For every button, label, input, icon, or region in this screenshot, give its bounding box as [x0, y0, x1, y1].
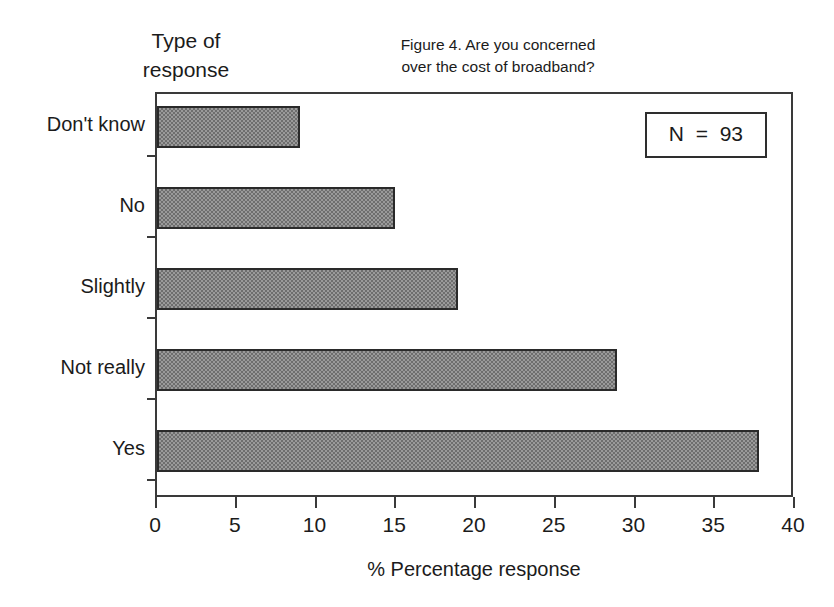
x-tick-mark — [155, 497, 157, 508]
x-axis-tick-labels: 0510152025303540 — [155, 512, 793, 542]
x-tick-mark — [713, 497, 715, 508]
x-tick-mark — [315, 497, 317, 508]
bar-don-t-know — [157, 106, 300, 148]
y-tick-label-yes: Yes — [112, 436, 145, 460]
x-tick-mark — [793, 497, 795, 508]
x-tick-label-25: 25 — [542, 512, 565, 538]
figure-title-line1: Figure 4. Are you concerned — [338, 34, 658, 56]
figure-title-line2: over the cost of broadband? — [338, 56, 658, 78]
x-tick-mark — [394, 497, 396, 508]
bar-slightly — [157, 268, 458, 310]
x-tick-mark — [474, 497, 476, 508]
x-tick-label-30: 30 — [622, 512, 645, 538]
x-tick-label-15: 15 — [383, 512, 406, 538]
x-tick-label-20: 20 — [462, 512, 485, 538]
x-axis-title: % Percentage response — [155, 556, 793, 582]
y-tick-label-don-t-know: Don't know — [47, 112, 145, 136]
y-axis-group-label: Type of response — [74, 26, 298, 84]
y-tick-mark — [147, 398, 157, 400]
y-tick-label-not-really: Not really — [61, 355, 145, 379]
y-tick-label-slightly: Slightly — [81, 274, 145, 298]
x-tick-mark — [235, 497, 237, 508]
x-tick-label-5: 5 — [229, 512, 241, 538]
x-tick-mark — [634, 497, 636, 508]
bar-not-really — [157, 349, 617, 391]
y-axis-group-label-line2: response — [143, 58, 229, 81]
y-tick-mark — [147, 317, 157, 319]
y-tick-label-no: No — [119, 193, 145, 217]
figure-title: Figure 4. Are you concerned over the cos… — [338, 34, 658, 78]
x-tick-mark — [554, 497, 556, 508]
bar-yes — [157, 430, 759, 472]
y-tick-mark — [147, 236, 157, 238]
x-tick-label-40: 40 — [781, 512, 804, 538]
x-tick-label-10: 10 — [303, 512, 326, 538]
y-tick-mark — [147, 155, 157, 157]
sample-size-annotation: N = 93 — [645, 112, 767, 158]
figure-container: Type of response Figure 4. Are you conce… — [0, 0, 834, 607]
y-tick-mark — [147, 479, 157, 481]
y-axis-tick-labels: Don't knowNoSlightlyNot reallyYes — [0, 92, 145, 497]
x-tick-label-35: 35 — [702, 512, 725, 538]
bar-no — [157, 187, 395, 229]
plot-area: N = 93 — [155, 92, 793, 497]
y-axis-group-label-line1: Type of — [152, 29, 221, 52]
x-tick-label-0: 0 — [149, 512, 161, 538]
x-axis-ticks — [155, 497, 793, 513]
